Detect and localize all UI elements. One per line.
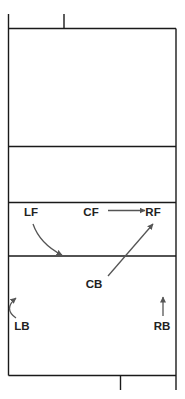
arrow-cb-to-rf-icon: [108, 224, 153, 276]
label-lf: LF: [24, 206, 38, 218]
arrow-lf-icon: [33, 224, 62, 255]
label-cb: CB: [86, 278, 103, 290]
label-cf: CF: [83, 206, 98, 218]
movement-arrows: [10, 211, 164, 319]
label-rf: RF: [145, 206, 160, 218]
position-labels: LF CF RF CB LB RB: [14, 206, 170, 332]
volleyball-court-diagram: LF CF RF CB LB RB: [0, 0, 185, 399]
label-rb: RB: [154, 320, 171, 332]
label-lb: LB: [14, 320, 29, 332]
court-lines: [9, 14, 177, 390]
arrow-lb-icon: [10, 298, 17, 318]
